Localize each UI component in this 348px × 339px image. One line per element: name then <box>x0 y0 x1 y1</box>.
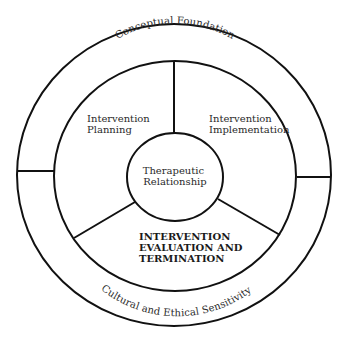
outer-ring-top-label: Conceptual Foundation <box>113 15 237 41</box>
segment-planning-label: Intervention Planning <box>87 113 153 135</box>
segment-evaluation-label: INTERVENTION EVALUATION AND TERMINATION <box>139 231 246 264</box>
spoke-right <box>218 199 280 235</box>
spoke-left <box>74 202 135 238</box>
intervention-model-diagram: Conceptual Foundation Cultural and Ethic… <box>0 0 348 339</box>
outer-ring-bottom-label: Cultural and Ethical Sensitivity <box>100 282 254 318</box>
center-label: Therapeutic Relationship <box>143 165 208 187</box>
